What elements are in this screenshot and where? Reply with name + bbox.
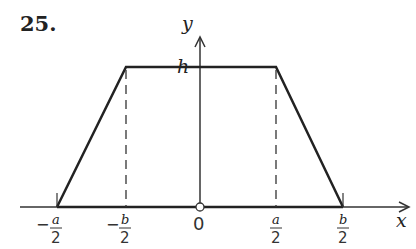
- svg-text:2: 2: [338, 229, 348, 247]
- svg-text:b: b: [339, 212, 347, 227]
- svg-text:2: 2: [120, 229, 130, 247]
- svg-text:a: a: [272, 212, 280, 227]
- trapezoid-diagram: 25. y x h 0 − a 2 − b 2 a 2 b 2: [0, 0, 416, 249]
- height-label: h: [177, 55, 189, 77]
- tick-label-b-half: b 2: [337, 212, 349, 247]
- svg-text:−: −: [106, 215, 119, 234]
- origin-label: 0: [193, 213, 204, 234]
- tick-label-neg-b-half: − b 2: [106, 212, 131, 247]
- x-axis-label: x: [396, 209, 407, 231]
- figure-number: 25.: [20, 11, 57, 36]
- origin-marker: [196, 203, 204, 211]
- svg-text:b: b: [121, 212, 129, 227]
- svg-text:−: −: [36, 215, 49, 234]
- svg-text:a: a: [52, 212, 60, 227]
- tick-label-neg-a-half: − a 2: [36, 212, 62, 247]
- svg-text:2: 2: [271, 229, 281, 247]
- tick-label-a-half: a 2: [270, 212, 282, 247]
- y-axis-label: y: [181, 12, 193, 34]
- svg-text:2: 2: [51, 229, 61, 247]
